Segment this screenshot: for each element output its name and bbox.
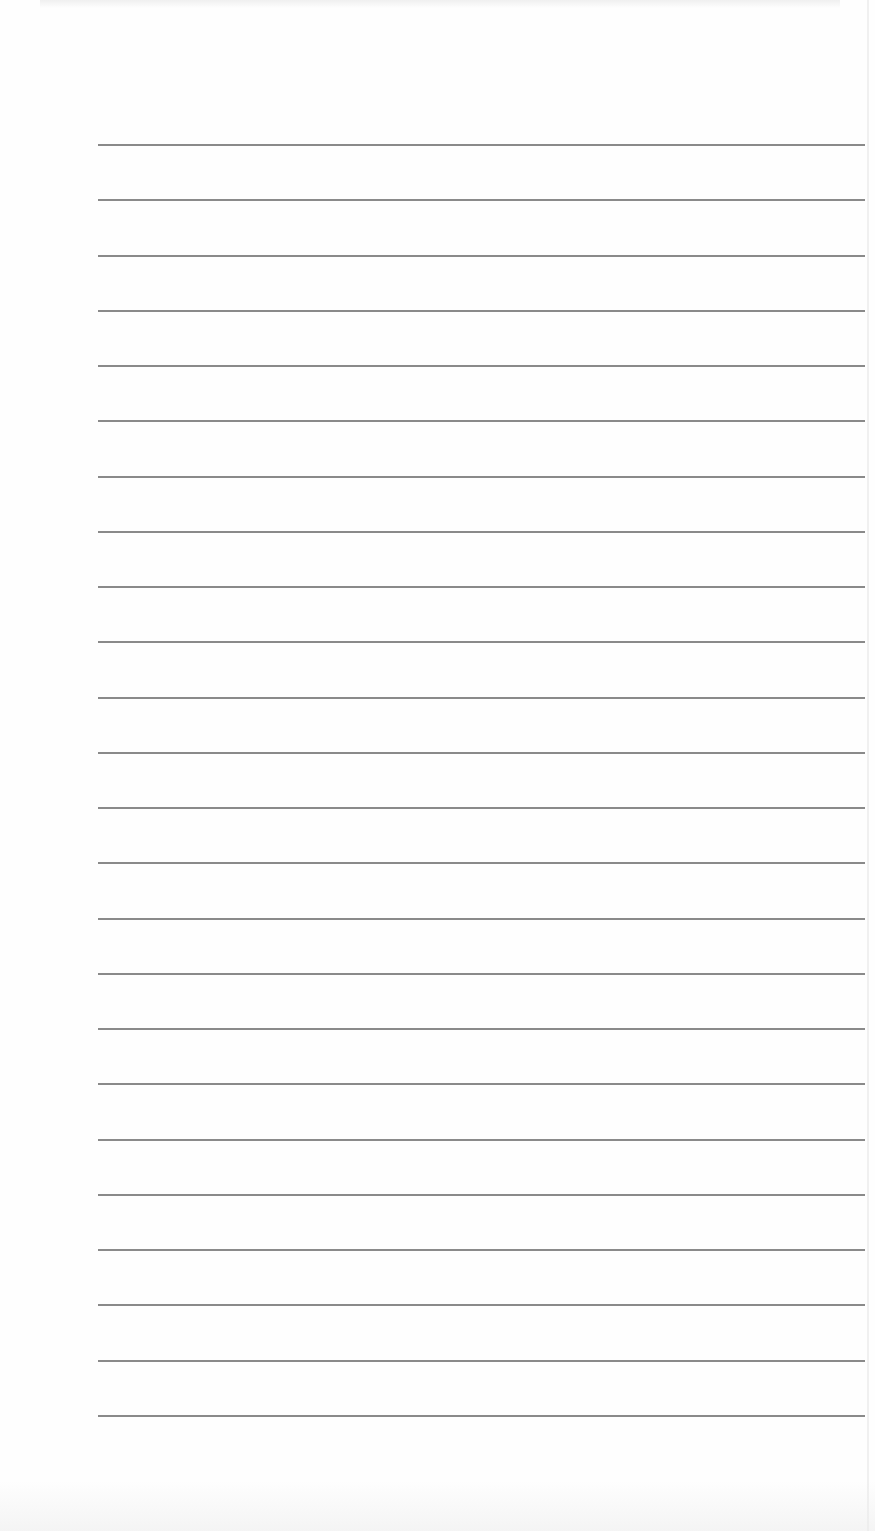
ruled-line bbox=[98, 365, 865, 367]
ruled-line bbox=[98, 862, 865, 864]
right-page-edge bbox=[867, 0, 869, 1531]
ruled-line bbox=[98, 144, 865, 146]
ruled-line bbox=[98, 641, 865, 643]
notepaper-page bbox=[0, 0, 875, 1531]
ruled-line bbox=[98, 1415, 865, 1417]
ruled-line bbox=[98, 586, 865, 588]
ruled-line bbox=[98, 420, 865, 422]
ruled-line bbox=[98, 918, 865, 920]
ruled-line bbox=[98, 1304, 865, 1306]
bottom-edge-shadow bbox=[0, 1481, 875, 1531]
ruled-line bbox=[98, 973, 865, 975]
ruled-line bbox=[98, 1028, 865, 1030]
ruled-line bbox=[98, 310, 865, 312]
ruled-line bbox=[98, 1360, 865, 1362]
ruled-line bbox=[98, 531, 865, 533]
ruled-line bbox=[98, 1249, 865, 1251]
ruled-line bbox=[98, 255, 865, 257]
ruled-line bbox=[98, 1083, 865, 1085]
ruled-line bbox=[98, 476, 865, 478]
ruled-line bbox=[98, 807, 865, 809]
top-edge-shadow bbox=[40, 0, 840, 8]
ruled-line bbox=[98, 1194, 865, 1196]
ruled-line bbox=[98, 752, 865, 754]
ruled-line bbox=[98, 199, 865, 201]
ruled-line bbox=[98, 1139, 865, 1141]
ruled-line bbox=[98, 697, 865, 699]
